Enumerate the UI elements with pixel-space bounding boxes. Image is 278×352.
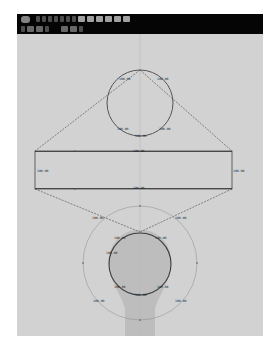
node-handle[interactable] xyxy=(139,205,141,207)
node-handle[interactable] xyxy=(74,188,76,190)
align-icon[interactable] xyxy=(105,16,112,22)
toolbar-row-secondary xyxy=(17,24,83,34)
node-handle[interactable] xyxy=(196,262,198,264)
measure-icon[interactable] xyxy=(70,26,77,32)
label: 100.00 xyxy=(135,134,147,138)
arc-tool-icon[interactable] xyxy=(54,16,58,22)
label: 100.00 xyxy=(175,216,187,220)
distribute-icon[interactable] xyxy=(114,16,121,22)
redo-icon[interactable] xyxy=(79,26,83,32)
rectangle-shape[interactable] xyxy=(35,151,232,189)
refresh-icon[interactable] xyxy=(21,16,30,23)
label: 100.00 xyxy=(133,149,145,153)
snap-icon[interactable] xyxy=(123,16,130,22)
label: 100.00 xyxy=(157,77,169,81)
label: 100.00 xyxy=(92,216,104,220)
dashed-guide xyxy=(140,189,232,232)
pen-tool-icon[interactable] xyxy=(66,16,70,22)
label: 100.00 xyxy=(37,169,49,173)
label: 100.00 xyxy=(93,299,105,303)
label: 100.00 xyxy=(133,186,145,190)
label: 100.00 xyxy=(233,169,245,173)
node-handle[interactable] xyxy=(74,150,76,152)
node-handle[interactable] xyxy=(82,262,84,264)
dashed-guide xyxy=(140,70,232,151)
shape-tool-icon[interactable] xyxy=(72,16,76,22)
drawing-canvas[interactable]: 100.00 100.00 100.00 100.00 100.00 100.0… xyxy=(17,34,263,336)
dashed-guide xyxy=(35,189,140,232)
fill-icon[interactable] xyxy=(78,16,85,22)
label: 100.00 xyxy=(119,77,131,81)
label: 100.00 xyxy=(135,293,147,297)
layer-icon[interactable] xyxy=(27,26,34,32)
label: 100.00 xyxy=(155,236,167,240)
node-tool-icon[interactable] xyxy=(42,16,46,22)
toolbar xyxy=(17,14,263,34)
line-tool-icon[interactable] xyxy=(48,16,52,22)
grid-icon[interactable] xyxy=(96,16,103,22)
node-handle[interactable] xyxy=(139,319,141,321)
label: 100.00 xyxy=(114,285,126,289)
label: 100.00 xyxy=(106,251,118,255)
label: 100.00 xyxy=(117,127,129,131)
label: 100.00 xyxy=(175,299,187,303)
diagram: 100.00 100.00 100.00 100.00 100.00 100.0… xyxy=(17,34,263,336)
group-icon[interactable] xyxy=(36,26,43,32)
curve-tool-icon[interactable] xyxy=(60,16,64,22)
undo-icon[interactable] xyxy=(45,26,49,32)
select-icon[interactable] xyxy=(21,26,25,32)
transform-icon[interactable] xyxy=(61,26,68,32)
toolbar-row-primary xyxy=(17,14,130,24)
gradient-icon[interactable] xyxy=(87,16,94,22)
dashed-guide xyxy=(35,70,140,151)
label: 100.00 xyxy=(114,236,126,240)
pointer-icon[interactable] xyxy=(36,16,40,22)
label: 100.00 xyxy=(157,285,169,289)
label: 100.00 xyxy=(159,127,171,131)
